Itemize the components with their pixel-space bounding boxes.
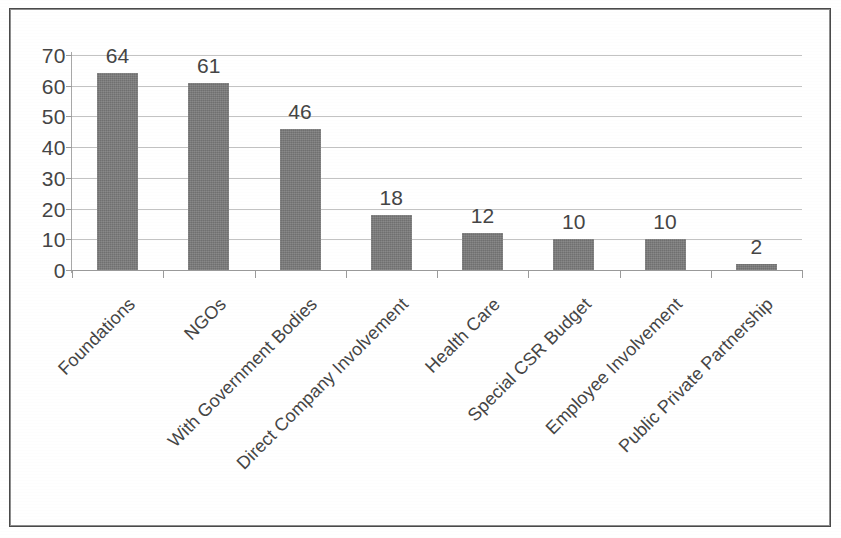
y-axis-tick-label: 40 — [20, 137, 66, 158]
gridline — [72, 178, 802, 179]
bar-value-label: 61 — [169, 55, 249, 76]
x-axis-tick — [346, 271, 347, 278]
bar-value-label: 10 — [534, 211, 614, 232]
y-axis-tick — [66, 239, 72, 240]
bar-value-label: 64 — [78, 45, 158, 66]
x-axis-tick — [802, 271, 803, 278]
bar[interactable] — [371, 215, 412, 270]
y-axis-labels: 010203040506070 — [10, 0, 66, 538]
bar-value-label: 46 — [260, 101, 340, 122]
gridline — [72, 239, 802, 240]
x-axis-category-label: With Government Bodies — [165, 295, 321, 451]
bar[interactable] — [462, 233, 503, 270]
plot-area — [72, 55, 802, 270]
gridline — [72, 116, 802, 117]
bar[interactable] — [97, 73, 138, 270]
x-axis-tick — [255, 271, 256, 278]
x-axis-tick — [620, 271, 621, 278]
gridline — [72, 86, 802, 87]
bar[interactable] — [553, 239, 594, 270]
y-axis-tick — [66, 55, 72, 56]
x-axis-tick — [437, 271, 438, 278]
x-axis-tick — [72, 271, 73, 278]
x-axis-tick — [528, 271, 529, 278]
y-axis-tick-label: 50 — [20, 106, 66, 127]
bar-value-label: 10 — [625, 211, 705, 232]
y-axis-tick-label: 60 — [20, 76, 66, 97]
y-axis-tick-label: 30 — [20, 168, 66, 189]
gridline — [72, 147, 802, 148]
y-axis-tick — [66, 86, 72, 87]
bar[interactable] — [280, 129, 321, 270]
bar-value-label: 12 — [443, 205, 523, 226]
y-axis-tick-label: 70 — [20, 45, 66, 66]
gridline — [72, 209, 802, 210]
y-axis-tick — [66, 270, 72, 271]
bar-chart: 010203040506070 646146181210102 Foundati… — [0, 0, 841, 538]
bar-value-label: 18 — [351, 187, 431, 208]
y-axis-tick — [66, 147, 72, 148]
chart-page: 010203040506070 646146181210102 Foundati… — [0, 0, 841, 538]
y-axis-tick-label: 20 — [20, 199, 66, 220]
y-axis-tick-label: 10 — [20, 229, 66, 250]
y-axis-tick — [66, 116, 72, 117]
y-axis-tick — [66, 178, 72, 179]
x-axis-category-label: Foundations — [54, 295, 138, 379]
bar-value-label: 2 — [716, 236, 796, 257]
x-axis-category-label: NGOs — [181, 295, 229, 343]
y-axis-tick-label: 0 — [20, 260, 66, 281]
x-axis-category-label: Direct Company Involvement — [234, 295, 412, 473]
y-axis-tick — [66, 209, 72, 210]
x-axis-tick — [711, 271, 712, 278]
x-axis-tick — [163, 271, 164, 278]
bar[interactable] — [645, 239, 686, 270]
x-axis-category-label: Health Care — [422, 295, 503, 376]
bar[interactable] — [188, 83, 229, 270]
x-axis-category-label: Public Private Partnership — [616, 295, 777, 456]
